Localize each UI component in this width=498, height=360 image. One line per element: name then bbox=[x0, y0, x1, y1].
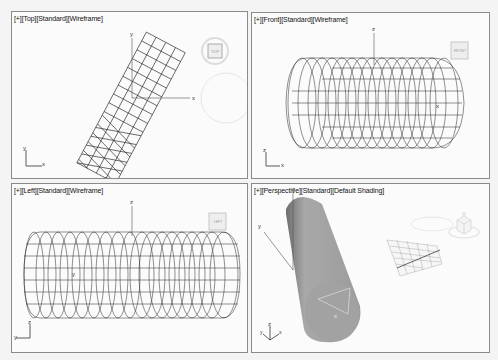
viewport-standard-menu[interactable]: [Standard] bbox=[37, 187, 68, 194]
svg-text:z: z bbox=[268, 321, 271, 327]
viewport-front[interactable]: [+][Front][Standard][Wireframe] z x bbox=[251, 12, 490, 179]
axis-tripod: z y bbox=[14, 316, 40, 342]
viewport-left[interactable]: [+][Left][Standard][Wireframe] z y bbox=[11, 183, 248, 353]
world-axis-y-label: y bbox=[72, 271, 75, 277]
viewport-shading-menu[interactable]: [Wireframe] bbox=[313, 16, 348, 23]
world-axis-x-label: x bbox=[436, 103, 439, 109]
viewport-point-of-view-menu[interactable]: [Front] bbox=[262, 16, 282, 23]
world-axis-z-label: z bbox=[372, 26, 375, 32]
viewport-perspective[interactable]: [+][Perspective][Standard][Default Shadi… bbox=[251, 183, 490, 353]
svg-text:LEFT: LEFT bbox=[214, 220, 223, 224]
svg-text:FRONT: FRONT bbox=[454, 49, 467, 53]
viewcube[interactable]: FRONT bbox=[450, 41, 470, 61]
viewcube[interactable] bbox=[447, 210, 481, 240]
svg-text:x: x bbox=[279, 329, 282, 335]
svg-text:y: y bbox=[23, 145, 26, 151]
viewport-shading-menu[interactable]: [Default Shading] bbox=[332, 187, 384, 194]
svg-text:x: x bbox=[281, 162, 284, 168]
viewport-menu-plus[interactable]: [+] bbox=[254, 187, 262, 194]
wireframe-cylinder-front[interactable]: z x bbox=[252, 13, 490, 179]
viewport-top[interactable]: [+][Top][Standard][Wireframe] y x bbox=[11, 11, 248, 179]
axis-tripod: y x bbox=[20, 144, 46, 170]
viewport-shading-menu[interactable]: [Wireframe] bbox=[68, 15, 103, 22]
viewport-menu-plus[interactable]: [+] bbox=[254, 16, 262, 23]
svg-text:z: z bbox=[263, 147, 266, 153]
home-grid bbox=[387, 240, 442, 276]
svg-text:x: x bbox=[42, 161, 45, 167]
viewcube[interactable]: TOP bbox=[200, 36, 230, 66]
world-axis-y-label: y bbox=[130, 31, 133, 37]
axis-tripod: z x bbox=[260, 144, 286, 170]
svg-text:y: y bbox=[14, 334, 17, 340]
world-axis-z-label: z bbox=[130, 199, 133, 205]
world-axis-y-label: y bbox=[258, 223, 261, 229]
viewport-standard-menu[interactable]: [Standard] bbox=[301, 187, 332, 194]
viewport-shading-menu[interactable]: [Wireframe] bbox=[68, 187, 103, 194]
svg-text:TOP: TOP bbox=[211, 49, 219, 54]
svg-text:y: y bbox=[260, 329, 263, 335]
axis-tripod: z y x bbox=[260, 318, 286, 344]
viewport-menu-plus[interactable]: [+] bbox=[14, 15, 22, 22]
viewport-point-of-view-menu[interactable]: [Left] bbox=[22, 187, 37, 194]
viewport-menu-plus[interactable]: [+] bbox=[14, 187, 22, 194]
viewport-point-of-view-menu[interactable]: [Perspective] bbox=[262, 187, 301, 194]
wireframe-cylinder-left[interactable]: z y bbox=[12, 184, 248, 353]
svg-text:z: z bbox=[28, 319, 31, 325]
viewport-standard-menu[interactable]: [Standard] bbox=[36, 15, 67, 22]
viewport-label-front: [+][Front][Standard][Wireframe] bbox=[254, 16, 348, 23]
viewcube[interactable]: LEFT bbox=[208, 212, 228, 232]
viewport-standard-menu[interactable]: [Standard] bbox=[281, 16, 312, 23]
viewport-label-left: [+][Left][Standard][Wireframe] bbox=[14, 187, 103, 194]
viewport-label-perspective: [+][Perspective][Standard][Default Shadi… bbox=[254, 187, 384, 194]
navigation-ring[interactable] bbox=[201, 73, 248, 123]
viewport-point-of-view-menu[interactable]: [Top] bbox=[22, 15, 37, 22]
viewport-label-top: [+][Top][Standard][Wireframe] bbox=[14, 15, 103, 22]
world-axis-x-label: x bbox=[192, 95, 195, 101]
world-axis-x-label: x bbox=[334, 313, 337, 319]
